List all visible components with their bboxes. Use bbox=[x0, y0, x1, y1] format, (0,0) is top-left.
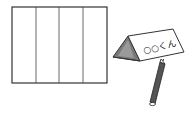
pencil-lead bbox=[163, 59, 164, 61]
paper-sheet bbox=[12, 7, 107, 83]
pencil-icon bbox=[150, 59, 166, 106]
pencil-end bbox=[150, 102, 156, 105]
illustration: ○○くん bbox=[0, 0, 192, 114]
paper-outline bbox=[12, 7, 107, 83]
pencil-body bbox=[150, 62, 165, 104]
name-tag: ○○くん bbox=[113, 29, 184, 61]
